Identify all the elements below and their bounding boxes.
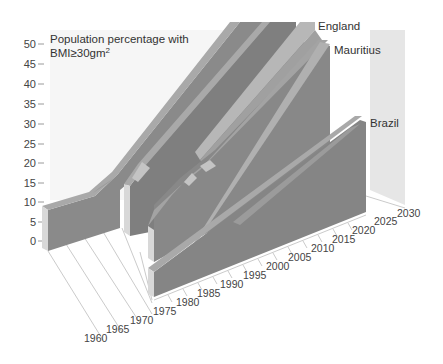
chart: 50 45 40 35 30 25 20 15 10 5 0 Populatio… (0, 0, 443, 364)
y-tick-label: 45 (24, 58, 36, 70)
y-tick-label: 50 (24, 38, 36, 50)
x-tick-label: 1995 (243, 269, 267, 281)
x-tick-label: 1965 (106, 323, 130, 335)
y-tick-labels: 50 45 40 35 30 25 20 15 10 5 0 (24, 38, 36, 247)
x-tick-label: 1975 (153, 305, 177, 317)
x-tick-label: 1980 (176, 296, 200, 308)
chart-title-line1: Population percentage with (50, 33, 189, 45)
y-tick-label: 40 (24, 78, 36, 90)
x-tick-label: 1990 (220, 278, 244, 290)
y-tick-label: 10 (24, 196, 36, 208)
x-tick-label: 2020 (352, 224, 376, 236)
series-label-brazil: Brazil (370, 117, 399, 129)
x-tick-label: 2000 (266, 260, 290, 272)
y-tick-label: 5 (30, 216, 36, 228)
y-tick-label: 20 (24, 157, 36, 169)
y-tick-label: 0 (30, 235, 36, 247)
y-tick-label: 35 (24, 98, 36, 110)
series-label-mauritius: Mauritius (334, 44, 381, 56)
x-tick-label: 2005 (288, 251, 312, 263)
x-tick-label: 2025 (374, 215, 398, 227)
y-tick-label: 30 (24, 118, 36, 130)
x-tick-label: 2010 (311, 242, 335, 254)
x-tick-label: 2030 (397, 207, 421, 219)
x-tick-label: 1960 (84, 332, 108, 344)
x-tick-label: 1985 (197, 287, 221, 299)
y-tick-label: 15 (24, 177, 36, 189)
x-tick-label: 1970 (130, 314, 154, 326)
chart-title-line2: BMI≥30gm2 (50, 46, 111, 59)
series-label-england: England (318, 20, 360, 32)
y-tick-label: 25 (24, 138, 36, 150)
